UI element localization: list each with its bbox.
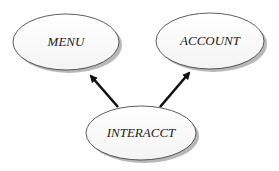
edge-interacct-to-menu	[91, 76, 118, 107]
node-interacct-label: INTERACCT	[106, 125, 176, 140]
edge-interacct-to-account	[160, 73, 189, 107]
node-interacct[interactable]: INTERACCT	[86, 106, 199, 163]
node-menu[interactable]: MENU	[13, 14, 122, 73]
node-menu-label: MENU	[47, 34, 86, 49]
node-account-label: ACCOUNT	[179, 33, 241, 48]
diagram-canvas: MENU ACCOUNT INTERACCT	[0, 0, 279, 171]
node-account[interactable]: ACCOUNT	[156, 13, 267, 72]
